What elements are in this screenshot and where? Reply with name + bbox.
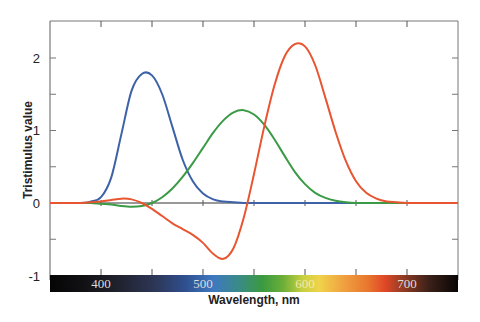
x-tick-label-700: 700 <box>397 276 417 291</box>
curve-g <box>50 110 458 207</box>
curve-b <box>50 72 458 203</box>
chart: 2 1 0 -1 Tristimulus value 400 500 600 7… <box>0 0 480 322</box>
x-tick-label-600: 600 <box>295 276 315 291</box>
y-tick-label-minus1: -1 <box>28 269 40 284</box>
plot-frame <box>50 21 458 280</box>
x-tick-label-400: 400 <box>91 276 111 291</box>
y-tick-label-2: 2 <box>33 51 40 66</box>
x-axis-ticks <box>101 21 407 275</box>
y-axis-ticks <box>50 58 458 276</box>
curves <box>50 43 458 259</box>
curve-r <box>50 43 458 259</box>
x-axis-title: Wavelength, nm <box>208 293 300 307</box>
x-tick-label-500: 500 <box>193 276 213 291</box>
y-axis-title: Tristimulus value <box>21 101 35 199</box>
